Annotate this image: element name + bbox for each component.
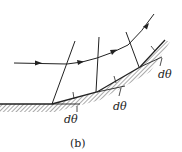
ray-path (14, 14, 154, 64)
angle-label-1: dθ (64, 113, 78, 126)
angle-arrow-icon (119, 88, 121, 96)
surface-hatching (0, 40, 170, 112)
angle-arrow-icon (160, 58, 162, 66)
figure-caption: (b) (70, 137, 86, 150)
angle-label-3: dθ (158, 68, 172, 81)
ray-arrow-icon (110, 50, 117, 56)
angle-label-2: dθ (113, 100, 127, 113)
normal-line-1 (52, 41, 75, 104)
normal-line-3 (126, 32, 139, 67)
ray-arrow-icon (77, 60, 84, 65)
ray-arrow-icon (35, 61, 42, 66)
normal-line-2 (96, 37, 99, 92)
angle-arrow-icon (151, 46, 155, 51)
refraction-diagram: dθ dθ dθ (b) (0, 0, 182, 152)
